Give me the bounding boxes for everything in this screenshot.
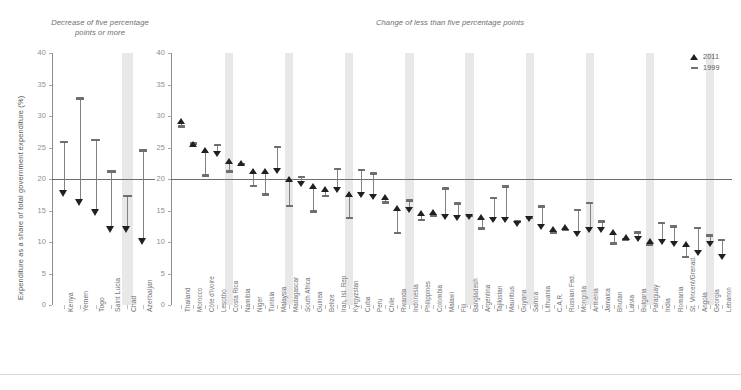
marker-2011 xyxy=(634,236,642,242)
x-axis-category-label: Niger xyxy=(256,297,263,312)
x-axis-tick xyxy=(662,305,663,309)
x-axis-category-label: Georgia xyxy=(713,289,720,312)
x-axis-category-label: Tajikistan xyxy=(496,286,503,312)
marker-2011 xyxy=(489,217,497,223)
x-axis-category-label: Madagascar xyxy=(292,277,299,312)
x-axis-category-label: Guyana xyxy=(520,290,527,312)
change-connector xyxy=(289,179,290,206)
x-axis-category-label: Guinea xyxy=(316,291,323,312)
y-axis-tick-label: 5 xyxy=(149,270,165,277)
x-axis-category-label: Namibia xyxy=(244,289,251,312)
x-axis-category-label: Samoa xyxy=(532,292,539,312)
x-axis-tick xyxy=(518,305,519,309)
marker-2011 xyxy=(225,158,233,164)
x-axis-category-label: Peru xyxy=(376,298,383,312)
marker-1999 xyxy=(370,172,377,175)
x-axis-category-label: Indonesia xyxy=(412,284,419,312)
x-axis-category-label: Thailand xyxy=(184,287,191,312)
marker-2011 xyxy=(333,187,341,193)
x-axis-tick xyxy=(253,305,254,309)
x-axis-tick xyxy=(289,305,290,309)
change-connector xyxy=(313,186,314,212)
x-axis-category-label: Mauritius xyxy=(508,286,515,312)
x-axis-tick xyxy=(217,305,218,309)
y-axis-tick-label: 15 xyxy=(149,207,165,214)
marker-2011 xyxy=(177,118,185,124)
legend-triangle-icon xyxy=(690,53,699,61)
x-axis-tick xyxy=(181,305,182,309)
x-axis-tick xyxy=(313,305,314,309)
x-axis-category-label: Morocco xyxy=(196,288,203,313)
x-axis-category-label: Belize xyxy=(328,295,335,312)
legend-item-1999[interactable]: 1999 xyxy=(690,63,720,72)
y-axis-tick xyxy=(168,211,171,212)
x-axis-tick xyxy=(482,305,483,309)
x-axis-category-label: Kyrgyzstan xyxy=(352,280,359,312)
marker-2011 xyxy=(213,151,221,157)
x-axis-category-label: C.A.R. xyxy=(556,293,563,312)
y-axis-tick xyxy=(168,85,171,86)
x-axis-category-label: Tunisia xyxy=(268,292,275,312)
legend-dash-icon xyxy=(690,64,699,72)
x-axis-category-label: Bhutan xyxy=(616,292,623,312)
x-axis-category-label: Mongolia xyxy=(580,286,587,312)
x-axis-category-label: Fiji xyxy=(460,304,467,312)
marker-2011 xyxy=(297,181,305,187)
marker-2011 xyxy=(718,254,726,260)
marker-2011 xyxy=(393,205,401,211)
x-axis-tick xyxy=(506,305,507,309)
marker-1999 xyxy=(310,210,317,213)
x-axis-tick xyxy=(722,305,723,309)
marker-1999 xyxy=(478,227,485,230)
x-axis-tick xyxy=(325,305,326,309)
x-axis-category-label: Cuba xyxy=(364,297,371,312)
marker-1999 xyxy=(418,219,425,222)
marker-2011 xyxy=(670,241,678,247)
x-axis-tick xyxy=(626,305,627,309)
marker-2011 xyxy=(658,239,666,245)
marker-2011 xyxy=(453,215,461,221)
y-axis-tick xyxy=(168,274,171,275)
marker-1999 xyxy=(574,209,581,212)
x-axis-category-label: Bangladesh xyxy=(472,278,479,312)
x-axis-tick xyxy=(205,305,206,309)
marker-2011 xyxy=(513,221,521,227)
change-connector xyxy=(265,171,266,194)
x-axis-tick xyxy=(614,305,615,309)
marker-2011 xyxy=(309,183,317,189)
x-axis-tick xyxy=(494,305,495,309)
x-axis-tick xyxy=(710,305,711,309)
x-axis-tick xyxy=(229,305,230,309)
x-axis-tick xyxy=(686,305,687,309)
marker-1999 xyxy=(598,220,605,223)
marker-1999 xyxy=(250,185,257,188)
x-axis-category-label: Lesotho xyxy=(220,289,227,312)
marker-1999 xyxy=(214,144,221,147)
x-axis-category-label: Russian Fed. xyxy=(568,274,575,312)
marker-2011 xyxy=(501,217,509,223)
x-axis-category-label: Armenia xyxy=(592,288,599,312)
marker-1999 xyxy=(406,199,413,202)
marker-2011 xyxy=(429,209,437,215)
marker-1999 xyxy=(442,187,449,190)
x-axis-category-label: Bulgaria xyxy=(640,288,647,312)
x-axis-tick xyxy=(458,305,459,309)
x-axis-category-label: Rwanda xyxy=(400,289,407,312)
x-axis-tick xyxy=(361,305,362,309)
x-axis-category-label: Lebanon xyxy=(725,287,732,312)
marker-2011 xyxy=(561,224,569,230)
marker-2011 xyxy=(646,238,654,244)
marker-2011 xyxy=(706,241,714,247)
marker-1999 xyxy=(322,195,329,198)
x-axis-tick xyxy=(542,305,543,309)
x-axis-tick xyxy=(349,305,350,309)
x-axis-category-label: Côte d'Ivoire xyxy=(208,276,215,312)
x-axis-category-label: India xyxy=(664,298,671,312)
x-axis-tick xyxy=(421,305,422,309)
legend-item-2011[interactable]: 2011 xyxy=(690,52,719,61)
marker-2011 xyxy=(441,214,449,220)
marker-1999 xyxy=(610,242,617,245)
marker-2011 xyxy=(694,250,702,256)
x-axis-tick xyxy=(650,305,651,309)
marker-1999 xyxy=(454,202,461,205)
